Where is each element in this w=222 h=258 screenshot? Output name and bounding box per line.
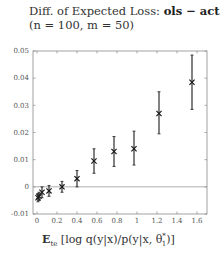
x-tick-label: 1.6	[191, 217, 203, 225]
data-series	[35, 55, 194, 202]
y-tick-label: 0.02	[13, 129, 29, 137]
x-tick-label: 0.6	[91, 217, 103, 225]
y-tick-label: 0	[25, 183, 29, 191]
y-tick-label: 0.01	[13, 156, 29, 164]
data-point	[156, 92, 161, 134]
y-tick-label: 0.04	[13, 74, 29, 82]
y-tick-label: -0.01	[11, 210, 29, 218]
x-tick-label: 0.8	[111, 217, 122, 225]
x-tick-label: 0	[35, 217, 39, 225]
x-tick-label: 1.2	[151, 217, 162, 225]
x-tick-label: 0.4	[71, 217, 83, 225]
plot-frame	[33, 51, 207, 214]
data-point	[131, 131, 136, 165]
scatter-plot: -0.0100.010.020.030.040.0500.20.40.60.81…	[0, 0, 222, 258]
data-point	[189, 55, 194, 109]
x-tick-label: 1	[135, 217, 139, 225]
y-tick-label: 0.03	[13, 102, 29, 110]
x-axis-label: Ete [log q(y|x)/p(y|x, θ*1)]	[42, 232, 175, 248]
y-tick-label: 0.05	[13, 47, 29, 55]
x-tick-label: 1.4	[171, 217, 183, 225]
data-point	[74, 171, 79, 187]
data-point	[91, 149, 96, 173]
data-point	[111, 137, 116, 167]
x-tick-label: 0.2	[51, 217, 62, 225]
